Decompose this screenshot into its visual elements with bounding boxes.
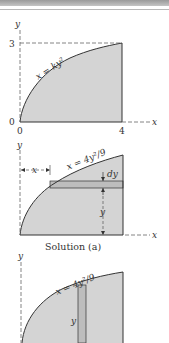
x-tick-4: 4 [119,126,125,136]
caption: Solution (a) [45,241,101,252]
dy-label: dy [107,169,119,179]
panel-1: y 3 0 0 4 x x = ky² [9,19,157,136]
y-tick-0: 0 [9,117,15,127]
y-axis-label: y [17,251,24,261]
y-tick-3: 3 [9,39,15,49]
x-axis-label: x [152,230,157,240]
vertical-strip [78,285,86,343]
panel-3: y x = 4y²/9 y [17,251,123,343]
horizontal-strip [50,181,123,188]
y-axis-label: y [16,140,23,150]
shaded-region [20,43,122,122]
figure: y 3 0 0 4 x x = ky² y x x dy y Soluti [0,0,169,343]
x-tick-0: 0 [17,126,23,136]
y-dimension-label: y [70,316,77,326]
y-dimension-label: y [99,207,106,217]
x-dimension-label: x [32,165,37,175]
x-axis-label: x [152,117,157,127]
y-axis-label: y [14,19,21,29]
arrow-left-icon [21,168,25,172]
arrow-right-icon [46,168,50,172]
